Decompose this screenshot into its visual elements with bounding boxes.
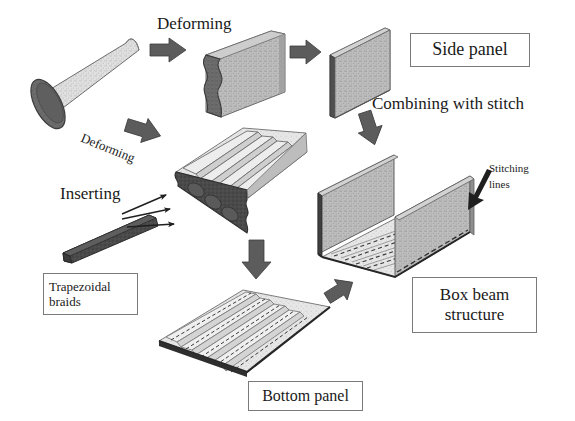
- trapezoidal-braid-bar: [63, 215, 158, 263]
- arrow-corrugated-to-bottom: [242, 240, 271, 279]
- side-panel-text: Side panel: [432, 39, 507, 60]
- arrow-tube-to-corrugated: [123, 113, 165, 147]
- bottom-panel-text: Bottom panel: [262, 387, 349, 406]
- corrugated-panel-with-braids: [175, 128, 307, 233]
- boxed-label-box-beam-structure: Box beam structure: [412, 277, 537, 333]
- boxed-label-bottom-panel: Bottom panel: [248, 381, 363, 411]
- trapezoidal-braids-text-line2: braids: [49, 294, 81, 309]
- box-beam-structure-text-line2: structure: [445, 305, 504, 325]
- deformed-s-section-panel: [203, 31, 285, 117]
- bottom-panel-stitched: [159, 290, 330, 377]
- box-beam-u-channel: [318, 155, 474, 277]
- braided-preform-tube: [24, 39, 139, 134]
- arrow-bottom-to-boxbeam: [321, 272, 359, 308]
- boxed-label-trapezoidal-braids: Trapezoidal braids: [43, 273, 138, 315]
- label-deforming-top: Deforming: [157, 14, 232, 33]
- label-combining-with-stitch: Combining with stitch: [372, 94, 524, 113]
- label-stitching-lines-line2: lines: [489, 178, 510, 190]
- box-beam-structure-text-line1: Box beam: [440, 285, 509, 305]
- label-inserting: Inserting: [60, 184, 120, 203]
- arrow-deformed-to-side: [290, 40, 321, 64]
- process-diagram: Deforming Deforming Inserting Combining …: [0, 0, 575, 421]
- arrow-tube-to-deformed: [150, 38, 186, 62]
- trapezoidal-braids-text-line1: Trapezoidal: [49, 279, 111, 294]
- arrow-side-to-boxbeam: [353, 108, 387, 148]
- label-stitching-lines-line1: Stitching: [489, 162, 529, 174]
- boxed-label-side-panel: Side panel: [410, 33, 530, 67]
